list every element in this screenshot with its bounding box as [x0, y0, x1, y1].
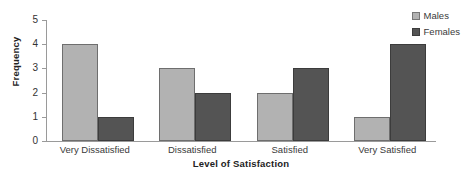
- bar-females-0: [98, 117, 134, 141]
- males-swatch-icon: [412, 12, 420, 20]
- bar-group: [354, 20, 426, 141]
- x-axis-line: [46, 141, 436, 142]
- legend-item-females[interactable]: Females: [412, 26, 460, 37]
- bar-chart: Frequency 543210 Very DissatisfiedDissat…: [0, 0, 464, 174]
- bar-group: [159, 20, 231, 141]
- y-tick-label: 2: [32, 86, 38, 99]
- bar-females-1: [195, 93, 231, 141]
- bars-layer: [47, 20, 436, 141]
- y-tick-label: 1: [32, 110, 38, 123]
- legend-item-males[interactable]: Males: [412, 10, 460, 21]
- bar-males-2: [257, 93, 293, 141]
- category-label: Satisfied: [241, 144, 339, 155]
- category-label: Very Dissatisfied: [46, 144, 144, 155]
- category-label: Dissatisfied: [144, 144, 242, 155]
- bar-females-3: [390, 44, 426, 141]
- category-label: Very Satisfied: [339, 144, 437, 155]
- y-tick-label: 3: [32, 61, 38, 74]
- y-tick-label: 4: [32, 37, 38, 50]
- y-tick-label: 0: [32, 134, 38, 147]
- bar-males-1: [159, 68, 195, 141]
- legend: MalesFemales: [412, 10, 460, 37]
- y-tick-0: 0: [42, 141, 47, 142]
- bar-males-3: [354, 117, 390, 141]
- bar-group: [62, 20, 134, 141]
- legend-label: Females: [424, 26, 460, 37]
- y-axis-title: Frequency: [10, 22, 21, 102]
- females-swatch-icon: [412, 28, 420, 36]
- x-axis-title: Level of Satisfaction: [46, 158, 436, 169]
- bar-group: [257, 20, 329, 141]
- bar-males-0: [62, 44, 98, 141]
- bar-females-2: [293, 68, 329, 141]
- y-tick-label: 5: [32, 13, 38, 26]
- legend-label: Males: [424, 10, 449, 21]
- plot-area: 543210 Very DissatisfiedDissatisfiedSati…: [46, 20, 436, 142]
